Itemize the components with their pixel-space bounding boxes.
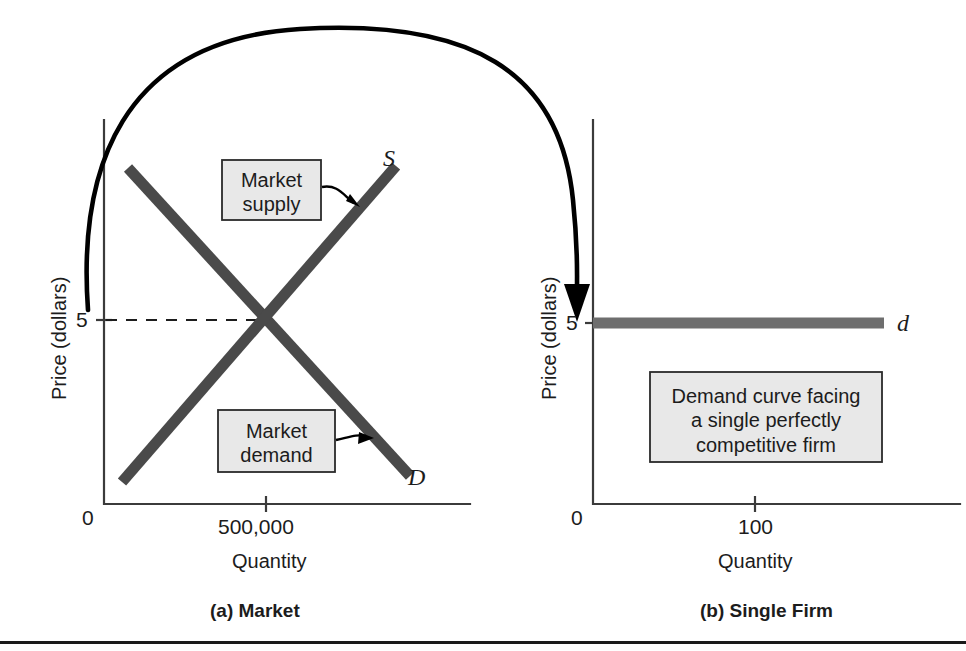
- market-supply-callout-text: Market supply: [222, 168, 321, 217]
- market-supply-curve-label: S: [383, 145, 395, 172]
- figure-bottom-rule: [0, 641, 966, 644]
- firm-demand-callout-text: Demand curve facing a single perfectly c…: [650, 384, 882, 457]
- price-transfer-arrow: [87, 28, 590, 322]
- market-supply-arrow: [322, 187, 360, 207]
- firm-panel-caption: (b) Single Firm: [700, 600, 833, 621]
- firm-origin-label: 0: [571, 506, 583, 530]
- market-demand-callout-text: Market demand: [218, 419, 335, 468]
- market-y-axis-title: Price (dollars): [48, 277, 70, 400]
- economics-figure: 5 0 500,000 Quantity Price (dollars) S D…: [0, 0, 966, 651]
- firm-xtick-label-100: 100: [738, 515, 773, 539]
- firm-demand-curve-label: d: [897, 310, 909, 337]
- figure-canvas: [0, 0, 966, 651]
- market-demand-curve-label: D: [408, 464, 425, 491]
- market-origin-label: 0: [82, 506, 94, 530]
- firm-y-axis-title: Price (dollars): [538, 277, 560, 400]
- market-ytick-label-5: 5: [76, 308, 88, 332]
- market-x-axis-title: Quantity: [232, 550, 306, 572]
- firm-x-axis-title: Quantity: [718, 550, 792, 572]
- market-xtick-label-500000: 500,000: [218, 515, 294, 539]
- market-panel-caption: (a) Market: [210, 600, 300, 621]
- firm-ytick-label-5: 5: [566, 311, 578, 335]
